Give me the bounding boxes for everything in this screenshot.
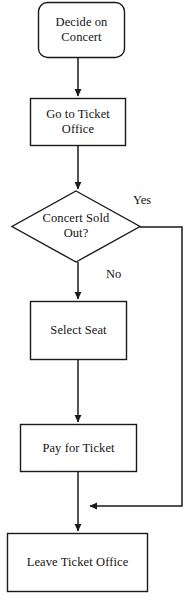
node-go-to-ticket-office-shape — [31, 99, 126, 146]
edge-label-yes: Yes — [133, 193, 151, 207]
flowchart-shapes-layer — [0, 0, 187, 601]
node-pay-for-ticket-shape — [21, 425, 137, 472]
node-select-seat-shape — [31, 302, 127, 360]
node-leave-ticket-office-shape — [8, 534, 148, 592]
node-decide-shape — [39, 3, 125, 58]
edge-label-no: No — [106, 267, 121, 281]
node-concert-sold-out-shape — [12, 191, 140, 262]
flowchart-diagram: Decide on Concert Go to Ticket Office Co… — [0, 0, 187, 601]
